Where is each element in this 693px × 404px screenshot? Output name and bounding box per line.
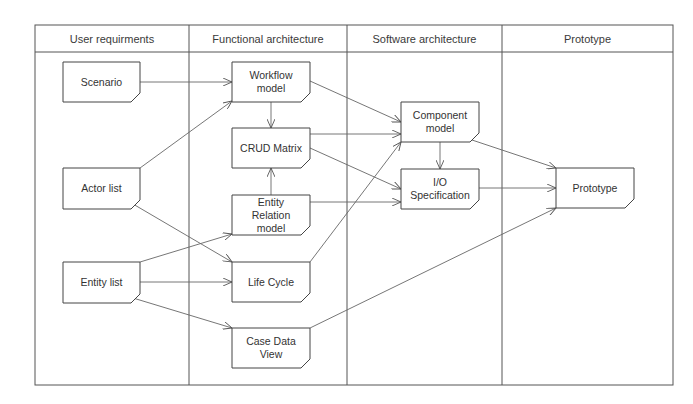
node-label: Scenario [81, 76, 122, 89]
node-scenario: Scenario [63, 62, 140, 102]
node-prototype: Prototype [556, 168, 634, 208]
node-shapes [63, 62, 634, 368]
node-label: CRUD Matrix [240, 142, 302, 155]
node-label: Actor list [81, 182, 121, 195]
column-header-software-architecture: Software architecture [347, 25, 502, 52]
node-actor-list: Actor list [63, 168, 140, 209]
node-life-cycle: Life Cycle [232, 262, 310, 302]
node-entity-list: Entity list [63, 262, 140, 303]
column-header-user-requirements: User requirments [35, 25, 189, 52]
column-header-functional-architecture: Functional architecture [189, 25, 347, 52]
edges [133, 81, 556, 328]
node-workflow-model: Workflow model [232, 62, 310, 102]
node-case-data-view: Case Data View [232, 328, 310, 368]
node-label: Entity Relation model [252, 196, 291, 235]
node-label: I/O Specification [410, 176, 470, 202]
edge-actor_list-to-life_cycle [133, 204, 232, 262]
node-label: Entity list [80, 276, 122, 289]
edge-actor_list-to-workflow_model [140, 101, 232, 168]
node-label: Prototype [573, 182, 618, 195]
node-label: Component model [413, 109, 467, 135]
node-label: Life Cycle [248, 276, 294, 289]
node-label: Workflow model [250, 69, 293, 95]
node-entity-relation-model: Entity Relation model [232, 195, 310, 235]
edge-crud_matrix-to-io_specification [310, 148, 401, 189]
node-crud-matrix: CRUD Matrix [232, 128, 310, 168]
edge-workflow_model-to-component_model [310, 81, 401, 122]
node-component-model: Component model [401, 102, 479, 142]
edge-entity_list-to-entity_relation_model [140, 234, 232, 262]
node-io-specification: I/O Specification [401, 169, 479, 209]
column-header-prototype: Prototype [502, 25, 673, 52]
edge-component_model-to-prototype [472, 140, 556, 168]
edge-entity_list-to-case_data_view [133, 298, 232, 328]
node-label: Case Data View [246, 335, 296, 361]
